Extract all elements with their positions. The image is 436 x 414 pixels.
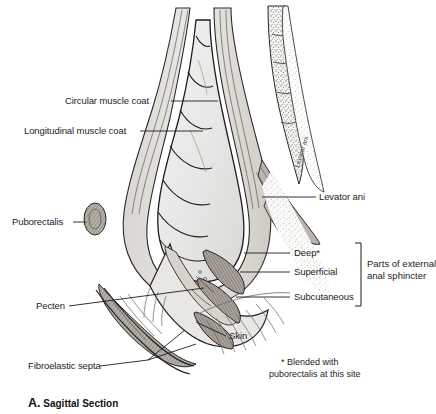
label-sphincter-group-line2: anal sphincter [367,270,426,281]
label-fibroelastic-septa: Fibroelastic septa [28,360,101,371]
footnote: * Blended with puborectalis at this site [281,357,361,380]
label-sphincter-group-line1: Parts of external [367,258,436,269]
label-superficial: Superficial [294,266,337,277]
footnote-line-1: * Blended with [281,357,361,369]
footnote-line-2: puborectalis at this site [269,369,361,381]
label-longitudinal-muscle-coat: Longitudinal muscle coat [24,125,126,136]
label-skin: Skin [229,330,247,341]
caption-text: Sagittal Section [43,398,118,409]
label-puborectalis: Puborectalis [12,216,63,227]
label-subcutaneous: Subcutaneous [294,291,354,302]
figure-caption: A. Sagittal Section [28,396,118,410]
label-deep: Deep* [294,247,320,258]
label-circular-muscle-coat: Circular muscle coat [65,95,149,106]
label-levator-ani: Levator ani [319,191,365,202]
puborectalis-muscle [84,203,106,235]
caption-letter: A. [28,396,41,410]
label-pecten: Pecten [36,300,65,311]
